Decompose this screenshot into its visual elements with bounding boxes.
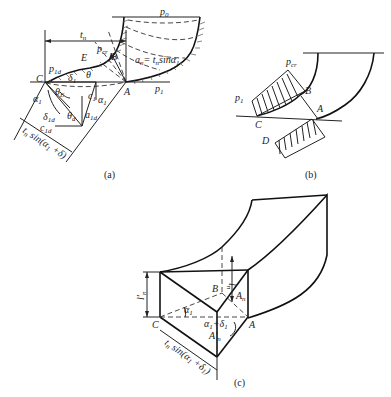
pressure-arrows-upper <box>257 74 298 114</box>
svg-text:an= tnsinα1: an= tnsinα1 <box>135 54 179 67</box>
caption-b: (b) <box>305 169 317 181</box>
svg-text:α1: α1 <box>98 94 107 107</box>
svg-text:C: C <box>152 319 159 330</box>
svg-text:θE: θE <box>55 86 65 99</box>
svg-text:A: A <box>316 103 324 114</box>
svg-text:pcr: pcr <box>285 56 297 69</box>
arrow-right <box>120 39 126 43</box>
svg-text:C: C <box>255 119 262 130</box>
svg-text:D: D <box>261 135 270 146</box>
svg-text:θd: θd <box>67 110 76 123</box>
throat-line-b <box>301 96 318 119</box>
svg-text:E: E <box>80 52 87 63</box>
prism-top-edge <box>160 270 248 272</box>
nozzle-cascade-figure: p0 tn pcr B an= tnsinα1 E p1d C A p1 θ δ… <box>0 0 391 397</box>
channel-surface-right <box>248 195 327 318</box>
svg-text:A: A <box>123 86 131 97</box>
svg-text:p1: p1 <box>154 83 164 96</box>
svg-text:C: C <box>36 73 43 84</box>
svg-text:δ1: δ1 <box>68 72 76 85</box>
svg-text:B: B <box>111 51 117 62</box>
caption-a: (a) <box>104 169 115 181</box>
blade-hatching-right <box>134 22 205 84</box>
svg-text:δ1d: δ1d <box>43 111 55 124</box>
arrow-left <box>45 39 51 43</box>
svg-text:pcr: pcr <box>96 43 108 56</box>
caption-c: (c) <box>234 377 245 389</box>
svg-text:A′n: A′n <box>208 330 221 343</box>
svg-text:p1d: p1d <box>48 63 62 76</box>
front-line-b <box>236 116 342 121</box>
panel-c <box>143 195 327 380</box>
svg-text:θ: θ <box>86 69 91 80</box>
svg-text:tn sin(α1 +δ1): tn sin(α1 +δ1) <box>162 337 214 379</box>
svg-text:α1: α1 <box>33 93 42 106</box>
panel-b <box>236 53 384 158</box>
isobar-2 <box>126 27 197 40</box>
svg-text:A: A <box>248 319 256 330</box>
svg-text:l′n: l′n <box>135 291 148 300</box>
channel-surface-left <box>160 200 252 272</box>
panel-c-labels: l′n ln B An α1 C A α1+δ1 A′n tn sin(α1 +… <box>135 283 256 389</box>
svg-text:p1: p1 <box>234 92 244 105</box>
svg-text:An: An <box>235 290 246 303</box>
blade-pressure-b <box>316 53 374 119</box>
panel-a-labels: p0 tn pcr B an= tnsinα1 E p1d C A p1 θ δ… <box>20 6 180 181</box>
svg-text:c1: c1 <box>88 90 96 103</box>
pressure-block-lower <box>275 119 325 158</box>
channel-top-edge <box>252 195 327 200</box>
isobar-1 <box>128 20 198 23</box>
svg-text:B: B <box>212 283 218 294</box>
svg-text:tn: tn <box>80 29 87 42</box>
svg-text:a1d: a1d <box>85 109 98 122</box>
svg-text:B: B <box>305 85 311 96</box>
